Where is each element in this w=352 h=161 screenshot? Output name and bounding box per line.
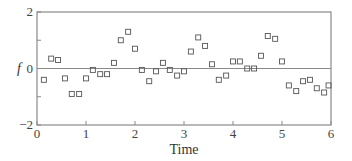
data-point <box>216 77 221 82</box>
x-tick-label: 2 <box>132 126 139 141</box>
y-tick-label: 2 <box>27 4 34 19</box>
data-point <box>69 91 74 96</box>
x-tick-label: 5 <box>279 126 286 141</box>
data-point <box>56 58 61 63</box>
data-point <box>160 60 165 65</box>
data-points <box>41 29 331 96</box>
data-point <box>49 56 54 61</box>
data-point <box>224 73 229 78</box>
x-tick-label: 0 <box>34 126 41 141</box>
x-tick-label: 3 <box>181 126 188 141</box>
data-point <box>105 72 110 77</box>
data-point <box>147 79 152 84</box>
data-point <box>196 35 201 40</box>
x-axis-label: Time <box>169 142 198 157</box>
data-point <box>62 76 67 81</box>
data-point <box>84 76 89 81</box>
x-tick-label: 1 <box>83 126 90 141</box>
scatter-chart: 0123456−202 Time f <box>0 0 352 161</box>
axis-labels: Time f <box>17 61 198 157</box>
data-point <box>237 59 242 64</box>
data-point <box>265 34 270 39</box>
data-point <box>175 73 180 78</box>
data-point <box>203 43 208 48</box>
data-point <box>133 46 138 51</box>
axis-ticks: 0123456−202 <box>19 4 335 141</box>
data-point <box>77 91 82 96</box>
data-point <box>286 83 291 88</box>
data-point <box>322 90 327 95</box>
data-point <box>41 77 46 82</box>
data-point <box>273 36 278 41</box>
data-point <box>301 79 306 84</box>
data-point <box>111 60 116 65</box>
data-point <box>154 69 159 74</box>
data-point <box>118 38 123 43</box>
data-point <box>98 72 103 77</box>
data-point <box>209 62 214 67</box>
data-point <box>126 29 131 34</box>
data-point <box>280 59 285 64</box>
data-point <box>314 86 319 91</box>
y-axis-label: f <box>17 61 23 76</box>
y-tick-label: −2 <box>19 117 33 132</box>
data-point <box>182 69 187 74</box>
data-point <box>307 77 312 82</box>
y-tick-label: 0 <box>27 61 34 76</box>
x-tick-label: 4 <box>230 126 237 141</box>
data-point <box>231 59 236 64</box>
data-point <box>258 53 263 58</box>
data-point <box>188 49 193 54</box>
data-point <box>326 83 331 88</box>
x-tick-label: 6 <box>328 126 335 141</box>
data-point <box>294 89 299 94</box>
